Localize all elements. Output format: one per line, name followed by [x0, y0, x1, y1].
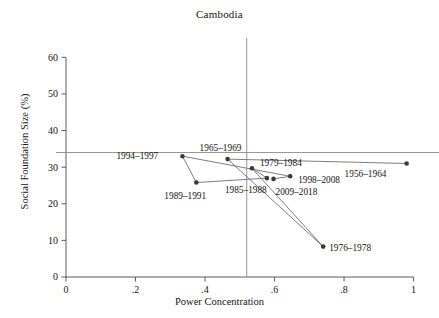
- x-axis-tick-label: 0: [64, 284, 69, 295]
- data-point-label: 1976–1978: [329, 243, 371, 253]
- data-point-label: 1994–1997: [116, 151, 158, 161]
- data-point-label: 1965–1969: [200, 143, 242, 153]
- data-point-marker: [180, 154, 185, 159]
- x-axis-tick-label: 1: [411, 284, 416, 295]
- x-axis-tick-label: .8: [340, 284, 348, 295]
- y-axis-tick-label: 50: [48, 88, 58, 99]
- data-point-marker: [265, 176, 270, 181]
- data-point-label: 2009–2018: [276, 187, 318, 197]
- data-point-marker: [404, 161, 409, 166]
- data-point-label: 1956–1964: [345, 169, 387, 179]
- y-axis-tick-label: 0: [53, 271, 58, 282]
- x-axis-tick-label: .4: [201, 284, 209, 295]
- y-axis-tick-label: 60: [48, 52, 58, 63]
- data-point-marker: [271, 177, 276, 182]
- data-point-label: 1979–1984: [260, 158, 302, 168]
- data-point-marker: [225, 157, 230, 162]
- scatter-plot: 01020304050600.2.4.6.81 1956–19641965–19…: [0, 0, 439, 318]
- y-axis-tick-label: 10: [48, 235, 58, 246]
- x-axis-tick-label: .6: [271, 284, 279, 295]
- data-point-label: 1998–2008: [298, 175, 340, 185]
- data-point-label: 1985–1988: [225, 185, 267, 195]
- data-point-marker: [321, 244, 326, 249]
- data-point-marker: [250, 166, 255, 171]
- y-axis-tick-label: 30: [48, 162, 58, 173]
- data-point-label: 1989–1991: [164, 191, 206, 201]
- x-axis-tick-label: .2: [132, 284, 140, 295]
- y-axis-tick-label: 40: [48, 125, 58, 136]
- data-point-marker: [194, 180, 199, 185]
- y-axis-tick-label: 20: [48, 198, 58, 209]
- reference-lines: [56, 38, 439, 277]
- data-point-marker: [288, 174, 293, 179]
- chart-figure: Cambodia Social Foundation Size (%) Powe…: [0, 0, 439, 318]
